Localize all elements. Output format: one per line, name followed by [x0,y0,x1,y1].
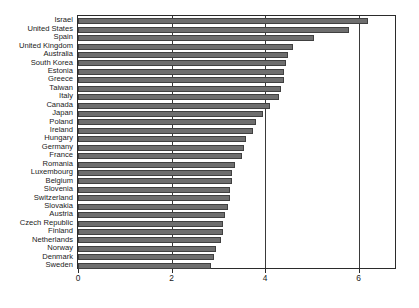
bar[interactable] [78,195,230,201]
bar[interactable] [78,119,256,125]
bar-row [78,27,396,33]
bar-row [78,153,396,159]
bar[interactable] [78,86,281,92]
bar-row [78,195,396,201]
x-axis-tick-labels: 0246 [0,273,419,287]
bar[interactable] [78,35,314,41]
y-axis-label: Australia [0,50,73,58]
bar[interactable] [78,128,253,134]
bar-row [78,35,396,41]
y-axis-category-labels: IsraelUnited StatesSpainUnited KingdomAu… [0,15,73,269]
bar[interactable] [78,60,286,66]
bar-row [78,162,396,168]
bar-row [78,111,396,117]
bar-row [78,204,396,210]
bar-row [78,119,396,125]
y-axis-label: Norway [0,244,73,252]
y-axis-label: Japan [0,109,73,117]
bar[interactable] [78,103,270,109]
bar-row [78,94,396,100]
bar-row [78,136,396,142]
bar[interactable] [78,145,244,151]
bar[interactable] [78,44,293,50]
bar[interactable] [78,153,242,159]
x-axis-tick-0 [78,269,79,273]
bar-row [78,254,396,260]
bar-row [78,86,396,92]
bar[interactable] [78,18,368,24]
bar-row [78,170,396,176]
bar[interactable] [78,212,225,218]
bar-row [78,212,396,218]
bar-row [78,178,396,184]
plot-area [77,15,396,269]
bar-row [78,44,396,50]
bar[interactable] [78,170,232,176]
x-axis-tick-label: 4 [263,273,268,283]
bar-row [78,18,396,24]
bar-row [78,229,396,235]
bar[interactable] [78,246,216,252]
bar[interactable] [78,111,263,117]
bar[interactable] [78,221,223,227]
y-axis-label: Sweden [0,261,73,269]
bar-row [78,69,396,75]
bar[interactable] [78,162,235,168]
y-axis-label: Luxembourg [0,168,73,176]
bar-chart: IsraelUnited StatesSpainUnited KingdomAu… [0,0,419,308]
bar[interactable] [78,178,232,184]
bar[interactable] [78,204,228,210]
bar[interactable] [78,52,288,58]
x-axis-tick-label: 6 [356,273,361,283]
bar-row [78,52,396,58]
bar[interactable] [78,187,230,193]
x-axis-tick-2 [172,269,173,273]
bar-row [78,145,396,151]
bar[interactable] [78,69,284,75]
bar-row [78,237,396,243]
bar-row [78,103,396,109]
y-axis-label: Slovenia [0,185,73,193]
bar[interactable] [78,263,211,269]
bar[interactable] [78,77,284,83]
bar-row [78,60,396,66]
bar-row [78,246,396,252]
bar[interactable] [78,237,221,243]
bar-row [78,221,396,227]
x-axis-tick-label: 0 [76,273,81,283]
bar[interactable] [78,136,246,142]
bars-container [78,16,395,268]
bar[interactable] [78,27,349,33]
bar-row [78,77,396,83]
x-axis-tick-label: 2 [169,273,174,283]
bar-row [78,263,396,269]
x-axis-tick-4 [265,269,266,273]
x-axis-tick-6 [359,269,360,273]
bar[interactable] [78,229,223,235]
bar-row [78,187,396,193]
bar-row [78,128,396,134]
bar[interactable] [78,94,279,100]
bar[interactable] [78,254,214,260]
